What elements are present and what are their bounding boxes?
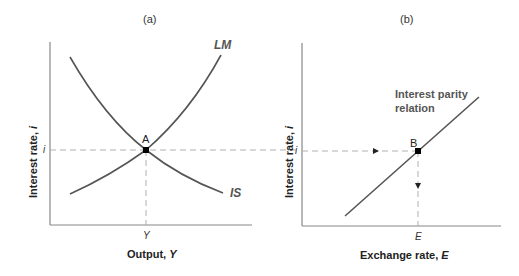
y-axis-variable: i xyxy=(283,126,295,129)
x-axis-variable: E xyxy=(441,249,448,261)
point-a-marker xyxy=(143,147,149,153)
panel-a-guides xyxy=(50,150,300,225)
point-b-label: B xyxy=(410,137,417,149)
arrow-right-icon xyxy=(373,148,379,154)
panel-b-x-tick: E xyxy=(415,231,422,242)
panel-a-axes xyxy=(50,42,252,225)
panel-a-x-axis-title: Output, Y xyxy=(127,248,177,260)
x-axis-label-text: Exchange rate, xyxy=(360,249,441,261)
panel-a-title: (a) xyxy=(143,13,156,25)
arrow-down-icon xyxy=(415,183,421,189)
interest-parity-label-line1: Interest parity xyxy=(395,87,468,101)
point-a-label: A xyxy=(142,133,149,145)
panel-b-guides xyxy=(302,151,418,226)
is-label: IS xyxy=(230,186,241,200)
interest-parity-label-line2: relation xyxy=(395,101,468,115)
panel-b-axes xyxy=(302,43,501,226)
panel-b-title: (b) xyxy=(400,13,413,25)
y-axis-label-text: Interest rate, xyxy=(283,129,295,198)
x-axis-label-text: Output, xyxy=(127,248,169,260)
diagram-canvas xyxy=(0,0,519,276)
y-axis-variable: i xyxy=(27,126,39,129)
y-axis-label-text: Interest rate, xyxy=(27,129,39,198)
interest-parity-label: Interest parity relation xyxy=(395,87,468,115)
lm-label: LM xyxy=(214,38,231,52)
panel-b-y-axis-title: Interest rate, i xyxy=(283,126,295,198)
panel-a-y-tick: i xyxy=(43,144,45,155)
panel-b-y-tick: i xyxy=(295,145,297,156)
panel-a-y-axis-title: Interest rate, i xyxy=(27,126,39,198)
panel-b-x-axis-title: Exchange rate, E xyxy=(360,249,449,261)
panel-a-x-tick: Y xyxy=(143,230,150,241)
x-axis-variable: Y xyxy=(169,248,176,260)
